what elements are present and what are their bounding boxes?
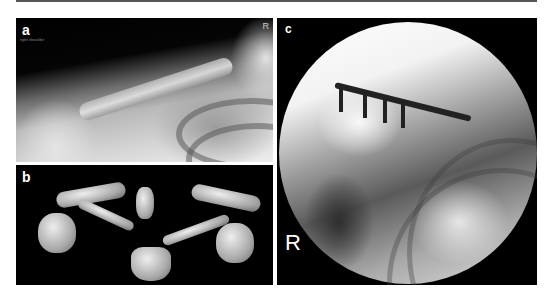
vertebra xyxy=(136,187,154,219)
screw xyxy=(383,97,387,123)
clavicle-left xyxy=(77,198,136,232)
manubrium xyxy=(131,247,171,281)
panel-b-ct-render: b xyxy=(16,165,273,285)
scapula-right xyxy=(190,183,262,213)
humeral-head-left xyxy=(38,213,76,253)
screw xyxy=(401,102,405,128)
panel-a-radiograph: a right shoulder R xyxy=(16,18,273,162)
panel-label-a: a xyxy=(22,22,30,38)
side-marker-r: R xyxy=(285,230,301,256)
screw xyxy=(363,92,367,118)
corner-marker: R xyxy=(263,21,270,31)
humeral-head-right xyxy=(216,223,254,263)
top-rule xyxy=(16,0,537,2)
panel-label-b: b xyxy=(22,169,31,185)
panel-c-fluoroscopy: c R xyxy=(277,18,537,285)
image-caption-text: right shoulder xyxy=(20,37,44,42)
screw xyxy=(339,86,343,112)
panel-label-c: c xyxy=(285,22,292,36)
